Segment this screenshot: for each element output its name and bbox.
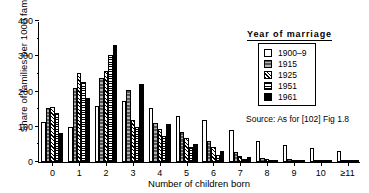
legend-swatch-icon	[264, 49, 272, 57]
bar	[300, 160, 304, 162]
legend-item-label: 1961	[278, 92, 297, 102]
bar	[86, 98, 90, 162]
y-axis-tick-label: 400	[18, 16, 33, 26]
legend-item-label: 1915	[278, 59, 297, 69]
bar	[327, 160, 331, 162]
x-axis-tick-label: 0	[50, 168, 55, 178]
source-note: Source: As for [102] Fig 1.8	[246, 114, 349, 124]
x-axis-tick	[240, 162, 241, 166]
y-axis-tick	[35, 161, 39, 162]
x-axis-tick	[348, 162, 349, 166]
bar	[247, 157, 251, 162]
y-axis-tick-label: 100	[18, 122, 33, 132]
bar-group	[176, 22, 198, 162]
x-axis-tick	[187, 162, 188, 166]
y-axis-minor-tick	[37, 73, 40, 74]
x-axis-tick-label: 4	[157, 168, 162, 178]
x-axis-tick	[213, 162, 214, 166]
x-axis-tick-label: 6	[211, 168, 216, 178]
x-axis-tick-label: 3	[130, 168, 135, 178]
x-axis-tick	[160, 162, 161, 166]
legend-item-label: 1900–9	[278, 48, 306, 58]
bar	[193, 144, 197, 162]
y-axis-minor-tick	[37, 38, 40, 39]
x-axis-tick	[321, 162, 322, 166]
y-axis-tick-label: 200	[18, 87, 33, 97]
x-axis-tick	[79, 162, 80, 166]
x-axis-tick-label: 9	[291, 168, 296, 178]
x-axis-tick-label: 7	[238, 168, 243, 178]
legend-item-label: 1925	[278, 70, 297, 80]
y-axis-tick-label: 300	[18, 51, 33, 61]
bar-group	[229, 22, 251, 162]
bar-group	[68, 22, 90, 162]
y-axis-tick	[35, 126, 39, 127]
bar-group	[337, 22, 359, 162]
x-axis-tick	[294, 162, 295, 166]
bar	[274, 160, 278, 162]
legend-title: Year of marriage	[247, 29, 332, 41]
legend-swatch-icon	[264, 60, 272, 68]
x-axis-title: Number of children born	[38, 178, 360, 189]
bar	[139, 84, 143, 162]
bar-group	[95, 22, 117, 162]
legend-item[interactable]: 1900–9	[264, 47, 306, 58]
x-axis-tick-label: 2	[104, 168, 109, 178]
legend-item[interactable]: 1951	[264, 80, 306, 91]
bar	[354, 160, 358, 162]
y-axis-tick	[35, 55, 39, 56]
legend-box: 1900–91915192519511961	[258, 43, 316, 106]
x-axis-tick-label: ≥11	[340, 168, 354, 178]
figure-container: Share of families per 1000 families 0100…	[0, 0, 369, 193]
y-axis-tick	[35, 91, 39, 92]
x-axis-tick	[106, 162, 107, 166]
legend-swatch-icon	[264, 93, 272, 101]
legend-swatch-icon	[264, 82, 272, 90]
y-axis-tick	[35, 20, 39, 21]
bar-group	[149, 22, 171, 162]
bar-group	[202, 22, 224, 162]
bar	[220, 151, 224, 162]
legend-item[interactable]: 1961	[264, 91, 306, 102]
legend-item-label: 1951	[278, 81, 297, 91]
x-axis-tick	[133, 162, 134, 166]
x-axis-tick	[52, 162, 53, 166]
x-axis-tick-label: 5	[184, 168, 189, 178]
legend-swatch-icon	[264, 71, 272, 79]
x-axis-tick-label: 1	[77, 168, 82, 178]
legend-item[interactable]: 1925	[264, 69, 306, 80]
bar	[166, 124, 170, 162]
bar	[113, 45, 117, 162]
legend-item[interactable]: 1915	[264, 58, 306, 69]
x-axis-tick-label: 10	[316, 168, 326, 178]
x-axis-tick-label: 8	[265, 168, 270, 178]
bar-group	[41, 22, 63, 162]
x-axis-tick	[267, 162, 268, 166]
y-axis-minor-tick	[37, 143, 40, 144]
bar-group	[122, 22, 144, 162]
y-axis-minor-tick	[37, 108, 40, 109]
y-axis-tick-label: 0	[28, 157, 33, 167]
bar	[59, 133, 63, 162]
